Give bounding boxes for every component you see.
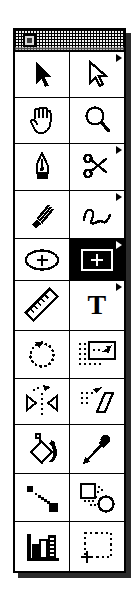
crop-page-icon bbox=[77, 528, 117, 566]
tool-button-freehand[interactable] bbox=[70, 191, 125, 239]
square-to-circle-icon bbox=[76, 480, 118, 516]
title-bar-shade bbox=[15, 47, 124, 50]
tool-button-direct-selection[interactable] bbox=[70, 52, 125, 98]
tool-button-measure[interactable] bbox=[15, 281, 70, 331]
hollow-arrow-icon bbox=[80, 57, 114, 91]
tool-button-shear[interactable] bbox=[70, 379, 125, 425]
ruler-icon bbox=[23, 286, 61, 324]
hand-icon bbox=[24, 103, 60, 137]
scissors-icon bbox=[79, 150, 115, 184]
tool-button-graph[interactable] bbox=[15, 522, 70, 571]
shear-parallelogram-icon bbox=[76, 384, 118, 418]
tool-button-blend[interactable] bbox=[15, 474, 70, 522]
tool-button-ellipse[interactable] bbox=[15, 239, 70, 281]
tool-button-scale[interactable] bbox=[70, 331, 125, 379]
magnifier-icon bbox=[80, 103, 114, 137]
palette-title-bar[interactable] bbox=[15, 30, 124, 52]
popup-triangle-icon[interactable] bbox=[116, 54, 122, 62]
paintbrush-icon bbox=[24, 197, 60, 233]
scale-box-arrow-icon bbox=[75, 337, 119, 371]
text-t-icon: T bbox=[87, 291, 106, 319]
tool-button-paint-bucket[interactable] bbox=[15, 425, 70, 475]
reflect-triangles-icon bbox=[21, 384, 63, 418]
tool-button-rectangle[interactable] bbox=[70, 239, 125, 281]
tool-button-reflect[interactable] bbox=[15, 379, 70, 425]
tool-button-paintbrush[interactable] bbox=[15, 191, 70, 239]
tool-button-blend-shapes[interactable] bbox=[70, 474, 125, 522]
rectangle-plus-icon bbox=[75, 245, 119, 275]
bar-chart-icon bbox=[21, 530, 63, 564]
tool-button-eyedropper[interactable] bbox=[70, 425, 125, 475]
popup-triangle-icon[interactable] bbox=[116, 283, 122, 291]
tool-button-hand[interactable] bbox=[15, 98, 70, 144]
popup-triangle-icon[interactable] bbox=[116, 241, 122, 249]
paint-bucket-icon bbox=[23, 430, 61, 468]
pen-nib-icon bbox=[25, 149, 59, 185]
blend-diagonal-icon bbox=[22, 481, 62, 515]
tool-palette-root: T bbox=[0, 0, 135, 589]
popup-triangle-icon[interactable] bbox=[116, 146, 122, 154]
tool-button-zoom[interactable] bbox=[70, 98, 125, 144]
tool-button-pen[interactable] bbox=[15, 144, 70, 192]
tool-grid: T bbox=[15, 52, 124, 571]
ellipse-plus-icon bbox=[20, 245, 64, 275]
rotate-dotted-circle-icon bbox=[24, 336, 60, 372]
tool-palette-window: T bbox=[13, 28, 126, 573]
tool-button-type[interactable]: T bbox=[70, 281, 125, 331]
tool-button-selection[interactable] bbox=[15, 52, 70, 98]
popup-triangle-icon[interactable] bbox=[116, 193, 122, 201]
close-box-icon[interactable] bbox=[23, 34, 36, 47]
tool-button-scissors[interactable] bbox=[70, 144, 125, 192]
tool-button-rotate[interactable] bbox=[15, 331, 70, 379]
tool-button-page[interactable] bbox=[70, 522, 125, 571]
eyedropper-icon bbox=[78, 430, 116, 468]
solid-arrow-icon bbox=[25, 57, 59, 91]
squiggle-line-icon bbox=[78, 200, 116, 230]
